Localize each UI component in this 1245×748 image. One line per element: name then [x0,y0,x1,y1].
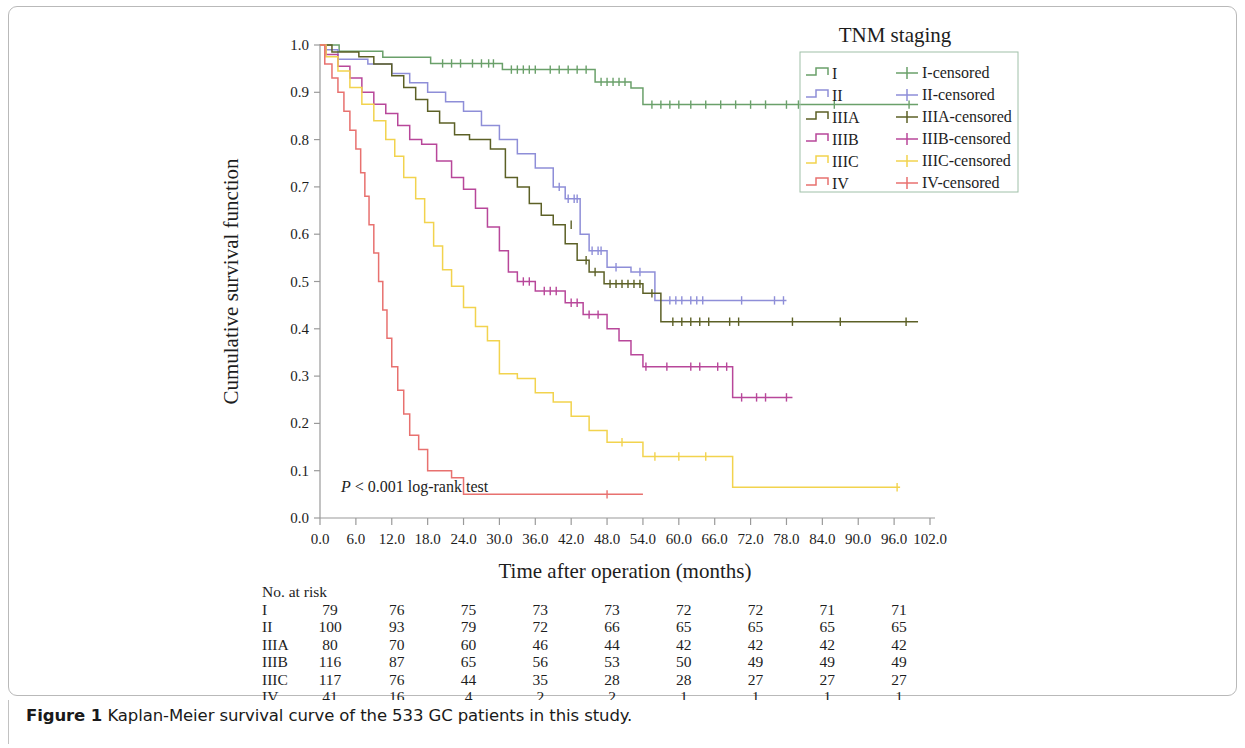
risk-cell: 2 [608,688,616,700]
risk-cell: 87 [389,653,405,670]
risk-cell: 1 [680,688,688,700]
risk-cell: 42 [676,636,692,653]
legend-step-glyph-IIIC [806,156,828,163]
risk-cell: 71 [891,601,907,618]
risk-cell: 66 [604,618,620,635]
risk-cell: 79 [461,618,477,635]
kaplan-meier-chart: 0.00.10.20.30.40.50.60.70.80.91.00.06.01… [0,0,1245,700]
y-tick-label: 0.2 [290,415,309,431]
risk-cell: 35 [533,671,549,688]
risk-cell: 76 [389,671,405,688]
risk-cell: 56 [533,653,549,670]
risk-cell: 1 [823,688,831,700]
risk-cell: 28 [676,671,692,688]
x-tick-label: 72.0 [737,531,763,547]
risk-cell: 27 [748,671,764,688]
y-axis-title: Cumulative survival function [219,158,243,405]
risk-cell: 1 [752,688,760,700]
legend-label-IIIA: IIIA [832,109,860,126]
legend-label-I: I [832,65,837,82]
x-axis-title: Time after operation (months) [499,559,752,583]
risk-row-label-I: I [262,601,267,618]
risk-cell: 49 [748,653,764,670]
legend-label-IIIC: IIIC [832,153,859,170]
risk-cell: 50 [676,653,692,670]
pvalue-symbol: P [340,478,351,495]
legend-step-glyph-II [806,90,828,97]
risk-cell: 79 [322,601,338,618]
risk-row-label-IIIA: IIIA [262,636,289,653]
risk-row-label-IIIC: IIIC [262,671,288,688]
x-tick-label: 6.0 [347,531,366,547]
risk-cell: 65 [676,618,692,635]
x-tick-label: 96.0 [881,531,907,547]
risk-cell: 72 [533,618,549,635]
figure-caption-label: Figure 1 [26,706,102,725]
risk-cell: 2 [536,688,544,700]
risk-cell: 49 [820,653,836,670]
x-tick-label: 102.0 [913,531,947,547]
risk-cell: 4 [465,688,473,700]
y-tick-label: 0.7 [290,179,309,195]
y-tick-label: 0.8 [290,132,309,148]
y-tick-label: 0.6 [290,226,309,242]
figure-page: 0.00.10.20.30.40.50.60.70.80.91.00.06.01… [0,0,1245,748]
risk-cell: 100 [318,618,342,635]
risk-table-header: No. at risk [262,583,327,600]
y-tick-label: 0.5 [290,274,309,290]
legend-censored-label-II: II-censored [922,86,995,103]
legend-step-glyph-IV [806,178,828,185]
legend-label-IIIB: IIIB [832,131,859,148]
risk-cell: 65 [748,618,764,635]
curve-IIIC [320,45,900,487]
legend-censored-label-IIIB: IIIB-censored [922,130,1011,147]
y-tick-label: 0.0 [290,510,309,526]
x-tick-label: 12.0 [379,531,405,547]
figure-caption-body: Kaplan-Meier survival curve of the 533 G… [107,706,632,725]
legend-step-glyph-IIIA [806,112,828,119]
risk-cell: 73 [533,601,549,618]
risk-cell: 65 [891,618,907,635]
figure-caption: Figure 1 Kaplan-Meier survival curve of … [26,706,1176,725]
risk-cell: 44 [604,636,620,653]
y-tick-label: 0.1 [290,463,309,479]
risk-cell: 80 [322,636,338,653]
caption-left-rule [8,700,9,744]
risk-cell: 75 [461,601,477,618]
legend-label-IV: IV [832,175,849,192]
risk-cell: 53 [604,653,620,670]
y-tick-label: 0.4 [290,321,309,337]
risk-cell: 44 [461,671,477,688]
risk-cell: 41 [322,688,338,700]
x-tick-label: 78.0 [773,531,799,547]
risk-cell: 73 [604,601,620,618]
risk-cell: 72 [676,601,692,618]
x-tick-label: 36.0 [522,531,548,547]
risk-cell: 70 [389,636,405,653]
pvalue-text: < 0.001 log-rank test [351,478,489,496]
x-tick-label: 60.0 [666,531,692,547]
x-tick-label: 0.0 [311,531,330,547]
risk-cell: 93 [389,618,405,635]
risk-row-label-IIIB: IIIB [262,653,288,670]
pvalue-annotation: P < 0.001 log-rank test [340,478,489,496]
risk-cell: 65 [461,653,477,670]
legend-censored-label-IIIC: IIIC-censored [922,152,1011,169]
risk-cell: 16 [389,688,405,700]
risk-cell: 1 [895,688,903,700]
risk-cell: 72 [748,601,764,618]
x-tick-label: 30.0 [486,531,512,547]
risk-cell: 46 [533,636,549,653]
x-tick-label: 84.0 [809,531,835,547]
curve-II [320,45,786,300]
x-tick-label: 66.0 [702,531,728,547]
risk-cell: 60 [461,636,477,653]
risk-row-label-II: II [262,618,272,635]
legend-step-glyph-IIIB [806,134,828,141]
risk-cell: 42 [748,636,764,653]
chart-svg: 0.00.10.20.30.40.50.60.70.80.91.00.06.01… [0,0,1245,700]
curve-IIIB [320,45,792,397]
risk-cell: 28 [604,671,620,688]
x-tick-label: 24.0 [450,531,476,547]
risk-cell: 65 [820,618,836,635]
